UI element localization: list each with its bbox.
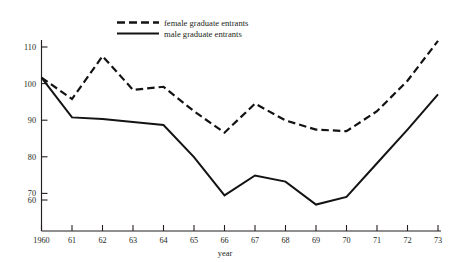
x-tick-label: 62	[98, 236, 106, 245]
x-tick-64: 64	[159, 225, 167, 245]
x-tick-label: 72	[403, 236, 411, 245]
x-tick-68: 68	[281, 225, 289, 245]
line-chart: female graduate entrants male graduate e…	[0, 0, 454, 262]
x-tick-label: 71	[373, 236, 381, 245]
legend-label-male: male graduate entrants	[164, 29, 242, 39]
y-tick-label: 90	[28, 116, 36, 125]
x-tick-label: 68	[281, 236, 289, 245]
x-tick-label: 66	[220, 236, 228, 245]
x-tick-69: 69	[312, 225, 320, 245]
x-tick-label: 61	[68, 236, 76, 245]
legend-label-female: female graduate entrants	[164, 18, 249, 28]
series-line-male	[42, 78, 439, 205]
y-tick-80: 80	[28, 153, 48, 162]
x-tick-label: 64	[159, 236, 167, 245]
y-axis: 110 100 90 80 70 60	[24, 40, 48, 231]
x-tick-73: 73	[434, 225, 442, 245]
legend: female graduate entrants male graduate e…	[117, 18, 249, 39]
x-tick-label: 1960	[33, 236, 49, 245]
x-tick-61: 61	[68, 225, 76, 245]
x-tick-71: 71	[373, 225, 381, 245]
x-tick-63: 63	[129, 225, 137, 245]
y-tick-label: 60	[28, 196, 36, 205]
x-tick-72: 72	[403, 225, 411, 245]
y-tick-110: 110	[24, 43, 47, 52]
x-tick-67: 67	[251, 225, 259, 245]
chart-container: female graduate entrants male graduate e…	[0, 0, 454, 262]
x-tick-label: 73	[434, 236, 442, 245]
x-tick-70: 70	[342, 225, 350, 245]
y-tick-90: 90	[28, 116, 48, 125]
x-axis: 1960 61 62 63 64 65	[33, 225, 442, 258]
y-tick-label: 80	[28, 153, 36, 162]
x-tick-62: 62	[98, 225, 106, 245]
x-tick-label: 63	[129, 236, 137, 245]
x-tick-label: 69	[312, 236, 320, 245]
y-tick-label: 100	[24, 80, 36, 89]
y-tick-label: 110	[24, 43, 36, 52]
x-tick-label: 65	[190, 236, 198, 245]
x-tick-1960: 1960	[33, 225, 49, 245]
x-tick-label: 67	[251, 236, 259, 245]
x-axis-title: year	[218, 249, 233, 258]
x-tick-label: 70	[342, 236, 350, 245]
y-tick-60: 60	[28, 196, 48, 205]
x-tick-65: 65	[190, 225, 198, 245]
x-tick-66: 66	[220, 225, 228, 245]
